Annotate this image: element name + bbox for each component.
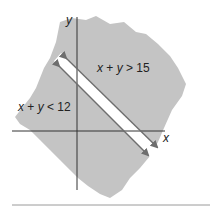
- label-less-than-12: x + y < 12: [17, 100, 71, 114]
- x-axis-label: x: [162, 131, 170, 145]
- inequality-diagram: y x x + y > 15 x + y < 12: [0, 0, 212, 209]
- y-axis-label: y: [65, 13, 73, 27]
- label-greater-than-15: x + y > 15: [96, 61, 150, 75]
